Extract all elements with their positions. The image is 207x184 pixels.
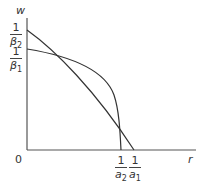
x-tick-inv-a1: 1 a1: [129, 155, 141, 183]
origin-label: 0: [15, 154, 22, 165]
y-tick-numerator: 1: [12, 22, 21, 33]
x-tick-numerator: 1: [130, 155, 139, 166]
y-tick-denominator: β1: [10, 60, 22, 74]
y-axis-label: w: [16, 5, 25, 16]
x-tick-denominator: a1: [129, 169, 141, 183]
x-tick-numerator: 1: [116, 155, 125, 166]
x-tick-denominator: a2: [115, 169, 127, 183]
bulging-curve: [27, 49, 121, 150]
diagram-canvas: [0, 0, 207, 184]
x-axis-label: r: [188, 154, 193, 165]
y-tick-inv-beta1: 1 β1: [10, 46, 22, 74]
x-tick-inv-a2: 1 a2: [115, 155, 127, 183]
steep-curve: [27, 30, 134, 150]
y-tick-numerator: 1: [12, 46, 21, 57]
